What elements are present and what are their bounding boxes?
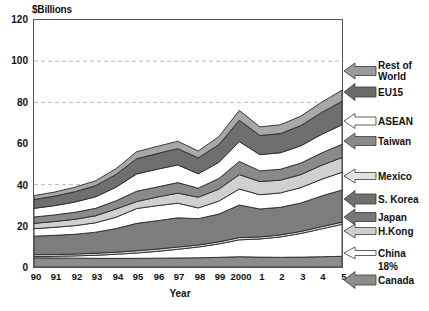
callout-label-taiwan: Taiwan bbox=[378, 136, 411, 147]
x-tick-label-2000: 2000 bbox=[227, 272, 255, 282]
callout-text: H.Kong bbox=[378, 226, 414, 237]
x-axis-title: Year bbox=[0, 288, 360, 299]
callout-arrow-japan bbox=[344, 209, 376, 225]
y-tick-label-20: 20 bbox=[2, 222, 28, 232]
x-tick-label-90: 90 bbox=[26, 272, 46, 282]
callout-label-canada: Canada bbox=[378, 275, 414, 286]
x-tick-label-3: 3 bbox=[293, 272, 313, 282]
x-tick-label-93: 93 bbox=[87, 272, 107, 282]
x-tick-label-5: 5 bbox=[334, 272, 354, 282]
x-tick-label-95: 95 bbox=[128, 272, 148, 282]
x-tick-label-96: 96 bbox=[149, 272, 169, 282]
callout-arrow-taiwan bbox=[344, 133, 376, 149]
callout-label-japan: Japan bbox=[378, 212, 407, 223]
callout-label-eu15: EU15 bbox=[378, 87, 403, 98]
callout-arrow-rest-of-world bbox=[344, 63, 376, 79]
x-tick-label-1: 1 bbox=[252, 272, 272, 282]
callout-text: ASEAN bbox=[378, 116, 413, 127]
callout-text: Japan bbox=[378, 212, 407, 223]
y-axis-title: $Billions bbox=[32, 4, 72, 15]
y-tick-label-100: 100 bbox=[2, 56, 28, 66]
x-tick-label-98: 98 bbox=[190, 272, 210, 282]
x-tick-label-92: 92 bbox=[67, 272, 87, 282]
x-tick-label-97: 97 bbox=[169, 272, 189, 282]
series-layer bbox=[34, 20, 342, 267]
callout-arrow-h-kong bbox=[344, 224, 376, 238]
callout-text: EU15 bbox=[378, 87, 403, 98]
x-tick-label-94: 94 bbox=[108, 272, 128, 282]
stacked-area-chart: $Billions 120 100 80 60 40 20 0 90 91 92… bbox=[0, 0, 429, 311]
callout-label-s-korea: S. Korea bbox=[378, 194, 419, 205]
y-tick-label-80: 80 bbox=[2, 98, 28, 108]
callout-label-asean: ASEAN bbox=[378, 116, 413, 127]
callout-arrow-mexico bbox=[344, 169, 376, 183]
y-tick-label-120: 120 bbox=[2, 15, 28, 25]
callout-text: Rest of World bbox=[378, 60, 412, 82]
callout-text: Taiwan bbox=[378, 136, 411, 147]
callout-arrow-china bbox=[344, 247, 376, 259]
plot-area bbox=[33, 19, 343, 268]
callout-text: China bbox=[378, 248, 406, 259]
callout-label-mexico: Mexico bbox=[378, 171, 412, 182]
callout-label-rest-of-world: Rest of World bbox=[378, 60, 412, 82]
x-tick-label-91: 91 bbox=[46, 272, 66, 282]
callout-arrow-s-korea bbox=[344, 191, 376, 208]
china-percent-annotation: 18% bbox=[378, 261, 398, 272]
x-tick-label-4: 4 bbox=[313, 272, 333, 282]
y-tick-label-0: 0 bbox=[2, 263, 28, 273]
x-tick-label-2: 2 bbox=[272, 272, 292, 282]
callout-text: S. Korea bbox=[378, 194, 419, 205]
y-tick-label-40: 40 bbox=[2, 181, 28, 191]
callout-arrow-asean bbox=[344, 114, 376, 129]
y-tick-label-60: 60 bbox=[2, 139, 28, 149]
callout-label-china: China bbox=[378, 248, 406, 259]
callout-label-h-kong: H.Kong bbox=[378, 226, 414, 237]
callout-arrow-eu15 bbox=[344, 84, 376, 101]
callout-text: Canada bbox=[378, 275, 414, 286]
callout-text: Mexico bbox=[378, 171, 412, 182]
area-bands bbox=[34, 90, 342, 267]
